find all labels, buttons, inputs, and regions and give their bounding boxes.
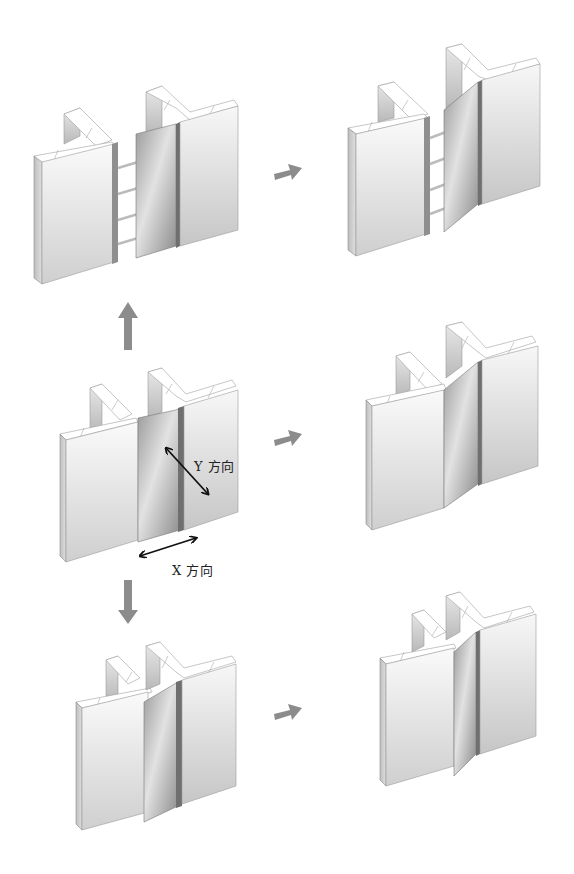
scene-bottom-right [380,592,536,786]
x-direction-arrow [140,538,196,556]
diagram-svg [0,0,574,874]
arrow-bottom-right [274,704,302,720]
diagram-canvas: Y 方向 X 方向 [0,0,574,874]
arrow-top-right [274,164,302,180]
arrow-up [118,302,138,350]
arrow-down [118,580,138,624]
scene-middle-right [366,322,538,530]
scene-top-left [34,86,238,284]
scene-top-right [348,44,540,256]
y-direction-label: Y 方向 [194,456,235,475]
x-direction-label: X 方向 [172,560,213,579]
arrow-middle-right [274,430,302,446]
scene-bottom-left [76,642,236,830]
